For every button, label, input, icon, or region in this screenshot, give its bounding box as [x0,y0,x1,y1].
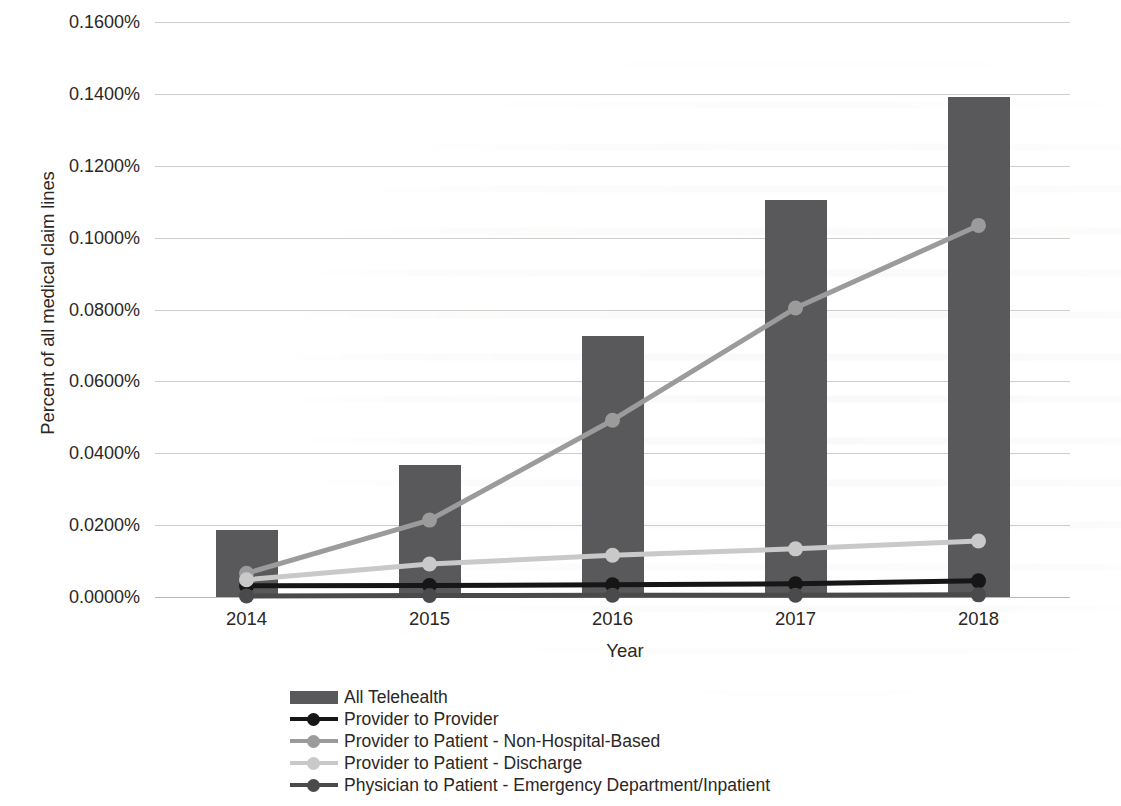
legend-bar-swatch-icon [288,686,344,708]
x-axis-tick-label: 2017 [736,608,856,630]
y-axis-tick-label: 0.0400% [20,443,140,464]
legend-line-marker-icon [288,708,344,730]
legend-dot-icon [307,713,320,726]
data-point-marker [605,548,620,563]
legend-label: Provider to Patient - Discharge [344,752,582,774]
data-point-marker [971,218,986,233]
legend-line-marker-icon [288,752,344,774]
y-axis-tick-label: 0.0000% [20,587,140,608]
data-point-marker [971,533,986,548]
legend-dot-icon [307,735,320,748]
chart-legend: All TelehealthProvider to ProviderProvid… [288,686,1048,796]
legend-item[interactable]: Physician to Patient - Emergency Departm… [288,774,1048,796]
y-axis-tick-label: 0.1200% [20,155,140,176]
line-series-group [155,22,1070,597]
y-axis-tick-label: 0.0800% [20,299,140,320]
legend-line-marker-icon [288,774,344,796]
data-point-marker [422,513,437,528]
y-axis-tick-label: 0.1000% [20,227,140,248]
legend-line-marker-icon [288,730,344,752]
x-axis-tick-label: 2014 [187,608,307,630]
y-axis-tick-label: 0.0600% [20,371,140,392]
chart-figure: Percent of all medical claim lines Year … [0,0,1121,806]
legend-label: All Telehealth [344,686,448,708]
data-point-marker [422,556,437,571]
legend-swatch [290,691,338,704]
legend-item[interactable]: Provider to Patient - Non-Hospital-Based [288,730,1048,752]
y-axis-tick-labels: 0.0000%0.0200%0.0400%0.0600%0.0800%0.100… [20,0,140,806]
legend-dot-icon [307,779,320,792]
legend-label: Physician to Patient - Emergency Departm… [344,774,770,796]
y-axis-tick-label: 0.1600% [20,12,140,33]
data-point-marker [788,301,803,316]
x-axis-tick-label: 2015 [370,608,490,630]
legend-label: Provider to Provider [344,708,499,730]
data-point-marker [239,588,254,603]
legend-item[interactable]: All Telehealth [288,686,1048,708]
data-point-marker [971,587,986,602]
data-point-marker [788,541,803,556]
y-axis-tick-label: 0.1400% [20,83,140,104]
x-axis-tick-label: 2016 [553,608,673,630]
data-point-marker [971,573,986,588]
data-point-marker [422,588,437,603]
legend-label: Provider to Patient - Non-Hospital-Based [344,730,660,752]
legend-item[interactable]: Provider to Provider [288,708,1048,730]
data-point-marker [605,588,620,603]
legend-dot-icon [307,757,320,770]
x-axis-title: Year [180,640,1070,662]
data-point-marker [605,413,620,428]
plot-area [155,22,1070,597]
legend-item[interactable]: Provider to Patient - Discharge [288,752,1048,774]
data-point-marker [788,588,803,603]
y-axis-tick-label: 0.0200% [20,515,140,536]
line-series [247,225,979,573]
x-axis-tick-label: 2018 [919,608,1039,630]
data-point-marker [239,572,254,587]
